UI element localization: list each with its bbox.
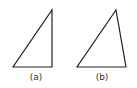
triangles-diagram (0, 0, 137, 88)
label-b: (b) (96, 73, 109, 82)
triangle-a (13, 10, 52, 67)
label-a: (a) (30, 73, 43, 82)
triangle-b (77, 10, 126, 67)
